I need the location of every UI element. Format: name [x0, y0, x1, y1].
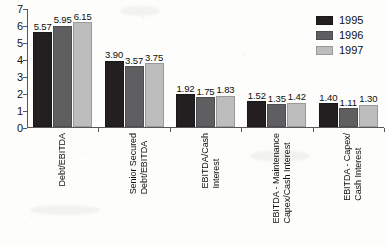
bar-chart: 01234567 5.575.956.153.903.573.751.921.7…: [0, 0, 387, 246]
bar-1997-1[interactable]: [73, 22, 92, 127]
bar-1997-4[interactable]: [287, 103, 306, 127]
y-axis-tick: [23, 60, 27, 61]
x-axis-category-label: EBITDA/Cash Interest: [200, 133, 221, 188]
bar-group: 5.575.956.15: [27, 9, 98, 127]
legend-item-1996[interactable]: 1996: [316, 29, 363, 42]
legend-swatch-1997: [316, 46, 333, 55]
bar-value-label: 3.75: [143, 53, 166, 63]
x-axis-category-label: Debt/EBITDA: [57, 133, 68, 186]
bar-1996-3[interactable]: [196, 97, 215, 127]
legend-label: 1995: [339, 15, 363, 26]
bar-1996-4[interactable]: [267, 104, 286, 127]
y-axis-tick: [23, 111, 27, 112]
bar-1995-5[interactable]: [319, 103, 338, 127]
x-axis-category-label: EBITDA - Capex/ Cash Interest: [342, 133, 363, 201]
bar-value-label: 1.83: [214, 85, 237, 95]
x-axis-line: [27, 127, 384, 128]
bar-1996-1[interactable]: [53, 26, 72, 127]
scan-smudge: [30, 205, 100, 215]
bar-value-label: 1.30: [357, 94, 380, 104]
x-axis-tick: [384, 128, 385, 132]
bar-1995-1[interactable]: [33, 32, 52, 127]
legend-item-1995[interactable]: 1995: [316, 14, 363, 27]
x-axis-tick: [313, 128, 314, 132]
bar-group: 1.521.351.42: [241, 9, 312, 127]
x-axis-category-label: EBITDA - Maintenance Capex/Cash Interest: [271, 133, 292, 224]
bar-1997-5[interactable]: [359, 105, 378, 127]
y-axis-tick: [23, 77, 27, 78]
x-axis-category-label: Senior Secured Debt/EBITDA: [128, 133, 149, 194]
legend-swatch-1996: [316, 31, 333, 40]
bar-value-label: 6.15: [71, 12, 94, 22]
legend-label: 1996: [339, 30, 363, 41]
bar-1996-5[interactable]: [339, 108, 358, 127]
bar-1996-2[interactable]: [125, 66, 144, 127]
legend: 199519961997: [316, 14, 363, 59]
y-axis-tick: [23, 128, 27, 129]
bar-1995-2[interactable]: [105, 61, 124, 127]
y-axis-tick: [23, 43, 27, 44]
bar-1997-3[interactable]: [216, 96, 235, 127]
bar-group: 3.903.573.75: [98, 9, 169, 127]
bar-1997-2[interactable]: [145, 63, 164, 127]
x-axis-tick: [241, 128, 242, 132]
legend-item-1997[interactable]: 1997: [316, 44, 363, 57]
y-axis-tick: [23, 9, 27, 10]
y-axis-tick: [23, 26, 27, 27]
legend-label: 1997: [339, 45, 363, 56]
bar-1995-4[interactable]: [247, 101, 266, 127]
x-axis-tick: [170, 128, 171, 132]
bar-group: 1.921.751.83: [170, 9, 241, 127]
bar-1995-3[interactable]: [176, 94, 195, 127]
x-axis-tick: [98, 128, 99, 132]
legend-swatch-1995: [316, 16, 333, 25]
bar-value-label: 1.42: [285, 92, 308, 102]
y-axis-tick: [23, 94, 27, 95]
